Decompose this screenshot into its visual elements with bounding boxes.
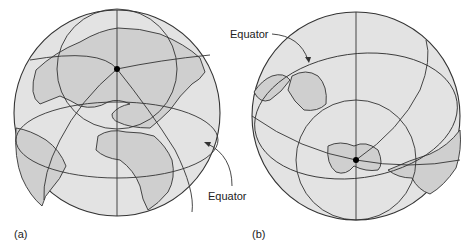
globe-b [246, 12, 465, 220]
pole-dot-a [114, 66, 120, 72]
equator-label-b: Equator [230, 28, 269, 40]
pole-dot-b [353, 157, 359, 163]
panel-label-b: (b) [252, 228, 265, 240]
globe-a [14, 9, 220, 216]
panel-label-a: (a) [14, 228, 27, 240]
equator-label-a: Equator [208, 190, 247, 202]
